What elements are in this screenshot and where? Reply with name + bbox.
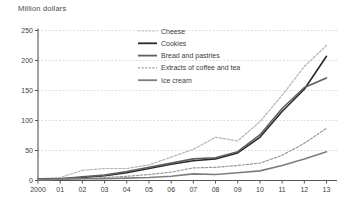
legend-label-ice-cream: Ice cream <box>161 77 192 84</box>
x-tick-label: 12 <box>300 186 308 193</box>
x-tick-label: 01 <box>56 186 64 193</box>
y-tick-label: 150 <box>21 87 33 94</box>
y-tick-label: 50 <box>25 147 33 154</box>
series-line-bread-and-pastries <box>38 78 327 179</box>
series-line-ice-cream <box>38 152 327 180</box>
legend-label-cheese: Cheese <box>161 28 185 35</box>
y-tick-label: 250 <box>21 27 33 34</box>
x-tick-label: 06 <box>167 186 175 193</box>
x-tick-label: 05 <box>145 186 153 193</box>
x-tick-label: 11 <box>278 186 285 193</box>
x-tick-label: 03 <box>101 186 109 193</box>
legend-label-cookies: Cookies <box>161 40 187 47</box>
x-tick-label: 02 <box>78 186 86 193</box>
y-tick-label: 100 <box>21 117 33 124</box>
x-tick-label: 09 <box>234 186 242 193</box>
y-tick-label: 0 <box>29 177 33 184</box>
y-tick-label: 200 <box>21 57 33 64</box>
chart-panel: Million dollars 050100150200250200001020… <box>0 0 348 205</box>
x-tick-label: 10 <box>256 186 264 193</box>
legend-label-extracts-of-coffee-and-tea: Extracts of coffee and tea <box>161 64 240 71</box>
x-tick-label: 13 <box>323 186 331 193</box>
x-tick-label: 08 <box>212 186 220 193</box>
line-chart: 0501001502002502000010203040506070809101… <box>0 0 348 205</box>
x-tick-label: 2000 <box>30 186 46 193</box>
x-tick-label: 07 <box>189 186 197 193</box>
series-line-extracts-of-coffee-and-tea <box>38 128 327 180</box>
legend-label-bread-and-pastries: Bread and pastries <box>161 52 220 60</box>
x-tick-label: 04 <box>123 186 131 193</box>
